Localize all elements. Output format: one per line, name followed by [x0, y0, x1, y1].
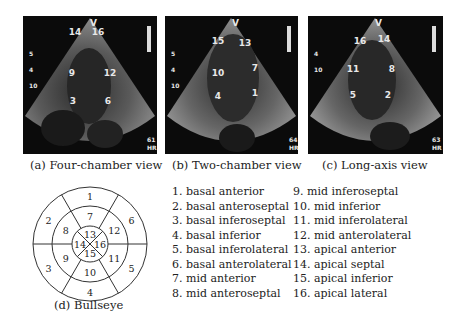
legend-item: 10. mid inferior — [293, 200, 411, 215]
segment-label: 1 — [252, 88, 258, 98]
caption-long-axis: (c) Long-axis view — [322, 158, 428, 172]
depth-marker: 10 — [29, 82, 37, 89]
corner-info: 63 — [432, 136, 440, 143]
bullseye-segment-1: 1 — [87, 191, 93, 202]
bullseye-segment-6: 6 — [129, 215, 135, 226]
segment-label: 4 — [215, 91, 221, 101]
depth-marker: 10 — [171, 82, 179, 89]
legend-item: 6. basal anterolateral — [172, 258, 292, 273]
segment-label: 14 — [69, 27, 82, 37]
segment-label: 3 — [70, 96, 76, 106]
bullseye-segment-8: 8 — [63, 225, 69, 236]
legend-item: 3. basal inferoseptal — [172, 214, 292, 229]
four-chamber-segment-labels: V141691236541061HR — [23, 16, 157, 154]
depth-marker: 10 — [314, 66, 322, 73]
legend-item: 15. apical inferior — [293, 272, 411, 287]
segment-label: 14 — [378, 34, 391, 44]
long-axis-image: V16141185241063HR — [308, 16, 443, 154]
segment-legend-col2: 9. mid inferoseptal10. mid inferior11. m… — [293, 185, 411, 301]
corner-info: HR — [147, 144, 157, 151]
segment-label: 12 — [104, 68, 117, 78]
legend-item: 13. apical anterior — [293, 243, 411, 258]
segment-label: 16 — [354, 36, 367, 46]
corner-info: HR — [289, 144, 298, 151]
bullseye-segment-9: 9 — [63, 253, 69, 264]
two-chamber-segment-labels: V151310741541064HR — [165, 16, 298, 154]
depth-marker: 4 — [29, 66, 33, 73]
depth-marker: 5 — [171, 50, 175, 57]
legend-item: 16. apical lateral — [293, 287, 411, 302]
segment-label: 6 — [105, 96, 111, 106]
segment-label: 13 — [239, 38, 252, 48]
bullseye-segment-12: 12 — [108, 225, 120, 236]
corner-info: 64 — [289, 136, 297, 143]
legend-item: 7. mid anterior — [172, 272, 292, 287]
segment-label: 15 — [212, 36, 225, 46]
legend-item: 12. mid anterolateral — [293, 229, 411, 244]
segment-label: 7 — [252, 63, 258, 73]
long-axis-segment-labels: V16141185241063HR — [308, 16, 443, 154]
view-marker: V — [375, 18, 382, 28]
caption-bullseye: (d) Bullseye — [54, 298, 123, 312]
view-marker: V — [232, 18, 239, 28]
bullseye-segment-7: 7 — [87, 211, 93, 222]
caption-two-chamber: (b) Two-chamber view — [172, 158, 302, 172]
legend-item: 5. basal inferolateral — [172, 243, 292, 258]
bullseye-segment-3: 3 — [45, 263, 51, 274]
segment-label: 8 — [389, 64, 395, 74]
segment-label: 10 — [212, 68, 225, 78]
bullseye-segment-10: 10 — [84, 267, 96, 278]
depth-marker: 4 — [171, 66, 175, 73]
segment-label: 9 — [69, 68, 75, 78]
depth-marker: 4 — [314, 50, 318, 57]
legend-item: 4. basal inferior — [172, 229, 292, 244]
legend-item: 1. basal anterior — [172, 185, 292, 200]
caption-four-chamber: (a) Four-chamber view — [30, 158, 162, 172]
legend-item: 14. apical septal — [293, 258, 411, 273]
bullseye-segment-11: 11 — [108, 253, 120, 264]
bullseye-segment-16: 16 — [94, 239, 106, 250]
bullseye-segment-4: 4 — [87, 287, 93, 298]
legend-item: 9. mid inferoseptal — [293, 185, 411, 200]
legend-item: 8. mid anteroseptal — [172, 287, 292, 302]
legend-item: 2. basal anteroseptal — [172, 200, 292, 215]
two-chamber-image: V151310741541064HR — [165, 16, 298, 154]
segment-legend-col1: 1. basal anterior2. basal anteroseptal3.… — [172, 185, 292, 301]
four-chamber-image: V141691236541061HR — [23, 16, 157, 154]
corner-info: HR — [432, 144, 442, 151]
segment-label: 16 — [92, 27, 105, 37]
legend-item: 11. mid inferolateral — [293, 214, 411, 229]
corner-info: 61 — [147, 136, 155, 143]
bullseye-plot: 12345678910111213141516 — [29, 183, 151, 305]
segment-label: 11 — [347, 64, 360, 74]
bullseye-segment-5: 5 — [129, 263, 135, 274]
segment-label: 5 — [350, 90, 356, 100]
depth-marker: 5 — [29, 50, 33, 57]
bullseye-segment-2: 2 — [45, 215, 51, 226]
segment-label: 2 — [385, 90, 391, 100]
